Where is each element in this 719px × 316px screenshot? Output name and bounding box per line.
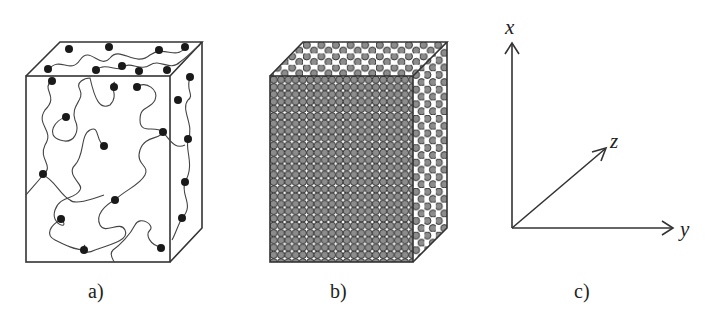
z-axis-label: z	[609, 129, 618, 153]
coordinate-axes	[505, 43, 673, 235]
panel-c-label: c)	[574, 280, 590, 303]
panel-a-box	[26, 42, 202, 262]
z-axis	[512, 149, 605, 228]
x-axis-label: x	[504, 15, 515, 39]
panel-a-label: a)	[88, 280, 104, 303]
figure: a) b)	[0, 0, 719, 316]
panel-b-box	[270, 42, 447, 262]
panel-b-label: b)	[330, 280, 347, 303]
y-axis-label: y	[678, 217, 690, 241]
